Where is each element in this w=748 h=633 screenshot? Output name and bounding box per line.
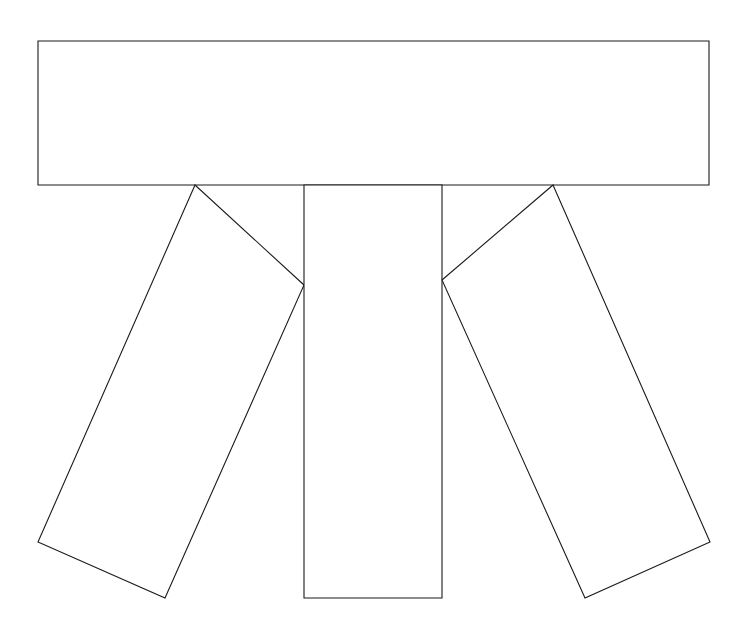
figure-canvas bbox=[0, 0, 748, 633]
right-leg-shape bbox=[442, 185, 710, 598]
center-leg-shape bbox=[304, 185, 442, 598]
left-leg-shape bbox=[38, 185, 304, 598]
horizontal-bar-shape bbox=[38, 41, 709, 185]
shape-figure bbox=[0, 0, 748, 633]
